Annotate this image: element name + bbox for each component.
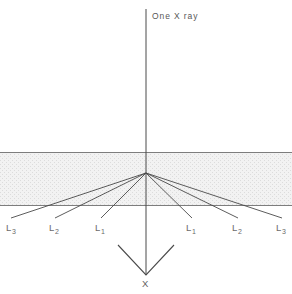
ray-label-subscript: 2 [55,228,59,235]
ray-label-subscript: 2 [238,228,242,235]
focus-label: X [142,278,149,289]
ray-label-subscript: 1 [192,228,196,235]
ray-label-right-L3: L3 [276,222,286,235]
ray-label-subscript: 3 [282,228,286,235]
ray-label-subscript: 1 [101,228,105,235]
ray-label-right-L2: L2 [232,222,242,235]
diagram-canvas [0,0,292,294]
ray-label-right-L1: L1 [186,222,196,235]
ray-label-left-L1: L1 [95,222,105,235]
x-ray-diffraction-diagram: One X ray X L3L2L1L1L2L3 [0,0,292,294]
ray-label-left-L2: L2 [49,222,59,235]
ray-label-subscript: 3 [12,228,16,235]
incident-beam-label: One X ray [152,11,198,21]
ray-label-left-L3: L3 [6,222,16,235]
